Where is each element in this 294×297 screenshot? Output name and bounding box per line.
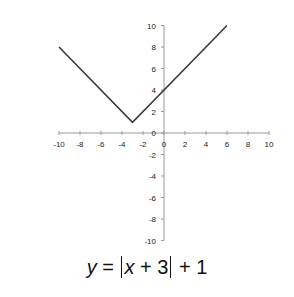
y-tick-label: 4 [152, 86, 157, 95]
equation-equals: = [97, 256, 120, 278]
x-tick-label: -10 [53, 140, 65, 149]
y-tick-label: 10 [147, 22, 156, 31]
y-tick-label: -4 [149, 172, 157, 181]
x-tick-label: 8 [246, 140, 251, 149]
abs-bar-right [170, 256, 171, 278]
x-tick-label: 4 [204, 140, 209, 149]
x-tick-label: 6 [225, 140, 230, 149]
y-tick-label: 0 [152, 129, 157, 138]
series-line [59, 26, 227, 123]
equation-inner: + 3 [134, 256, 168, 278]
equation-outer: + 1 [173, 256, 207, 278]
y-tick-label: -8 [149, 215, 157, 224]
y-tick-label: -6 [149, 194, 157, 203]
function-line [59, 26, 227, 123]
chart-plot: -10-8-6-4-20246810-10-8-6-4-20246810 [0, 0, 294, 250]
x-tick-label: -6 [97, 140, 105, 149]
x-tick-label: -4 [118, 140, 126, 149]
equation-y: y [87, 256, 97, 278]
equation-caption: y = x + 3 + 1 [0, 256, 294, 279]
y-tick-label: -10 [144, 237, 156, 246]
y-tick-label: 2 [152, 108, 157, 117]
y-tick-label: 8 [152, 43, 157, 52]
y-tick-label: -2 [149, 151, 157, 160]
x-tick-label: -2 [139, 140, 147, 149]
x-tick-label: 10 [265, 140, 274, 149]
y-tick-label: 6 [152, 65, 157, 74]
equation-x: x [124, 256, 134, 278]
x-tick-label: -8 [76, 140, 84, 149]
x-tick-label: 2 [183, 140, 188, 149]
abs-bar-left [121, 256, 122, 278]
x-tick-label: 0 [162, 140, 167, 149]
